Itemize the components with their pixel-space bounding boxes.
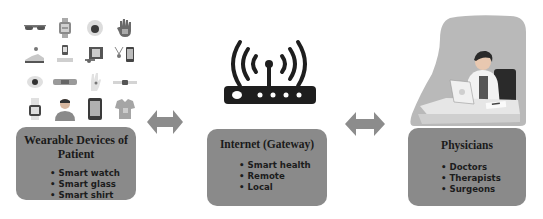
patient-title-line2: Patient bbox=[16, 147, 136, 161]
doctor-at-desk-illustration bbox=[410, 14, 526, 126]
smart-glove-icon bbox=[110, 14, 140, 41]
patient-box: Wearable Devices of Patient Smart watch … bbox=[16, 127, 136, 200]
list-item: Therapists bbox=[441, 173, 526, 184]
wristband-icon bbox=[50, 68, 80, 95]
tablet-icon bbox=[80, 95, 110, 122]
patient-title-line1: Wearable Devices of bbox=[16, 133, 136, 147]
hand-sensor-icon bbox=[80, 68, 110, 95]
list-item: Smart shirt bbox=[50, 190, 136, 201]
list-item: Smart watch bbox=[50, 168, 136, 179]
gateway-items-list: Smart health Remote Local bbox=[239, 160, 327, 193]
list-item: Surgeons bbox=[441, 184, 526, 195]
smartwatch-icon bbox=[50, 14, 80, 41]
list-item: Remote bbox=[239, 171, 327, 182]
list-item: Smart glass bbox=[50, 179, 136, 190]
skin-sensor-icon bbox=[20, 68, 50, 95]
wearable-icons-grid bbox=[20, 14, 140, 122]
physicians-title: Physicians bbox=[408, 138, 526, 152]
glasses-icon bbox=[20, 14, 50, 41]
smart-shirt-icon bbox=[110, 95, 140, 122]
sensor-patch-icon bbox=[80, 14, 110, 41]
watch-face-icon bbox=[20, 95, 50, 122]
physicians-box: Physicians Doctors Therapists Surgeons bbox=[408, 128, 526, 206]
bidirectional-arrow-icon bbox=[345, 109, 385, 139]
list-item: Local bbox=[239, 182, 327, 193]
list-item: Doctors bbox=[441, 162, 526, 173]
physicians-items-list: Doctors Therapists Surgeons bbox=[441, 162, 526, 195]
gateway-title: Internet (Gateway) bbox=[207, 137, 327, 151]
person-avatar-icon bbox=[50, 95, 80, 122]
bidirectional-arrow-icon bbox=[147, 107, 183, 137]
patient-items-list: Smart watch Smart glass Smart shirt bbox=[50, 168, 136, 201]
phone-stand-icon bbox=[50, 41, 80, 68]
gateway-box: Internet (Gateway) Smart health Remote L… bbox=[207, 129, 327, 206]
pendant-phone-icon bbox=[110, 41, 140, 68]
smart-shoe-icon bbox=[20, 41, 50, 68]
action-camera-icon bbox=[80, 41, 110, 68]
wifi-router-icon bbox=[220, 36, 318, 106]
patient-title: Wearable Devices of Patient bbox=[16, 133, 136, 161]
band-strip-icon bbox=[110, 68, 140, 95]
list-item: Smart health bbox=[239, 160, 327, 171]
